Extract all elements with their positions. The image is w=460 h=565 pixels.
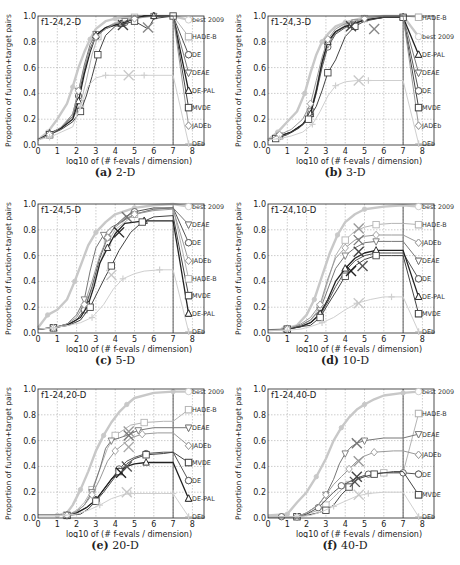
legend-item: MVDE (415, 104, 441, 112)
cross-marker-icon (143, 23, 153, 33)
x-tick-label: 1 (55, 335, 60, 344)
legend-best-2009-marker-icon (415, 33, 421, 39)
series-deb (38, 267, 192, 335)
deae-marker-icon (342, 451, 348, 457)
legend-item: best 2009 (185, 16, 224, 24)
legend-item: DEb (415, 140, 435, 148)
legend-item: MVDE (185, 104, 211, 112)
series-de (268, 14, 422, 140)
cross-marker-icon (106, 270, 116, 280)
legend-de-marker-icon (415, 471, 421, 477)
legend-label: MVDE (192, 104, 211, 112)
x-tick-label: 1 (55, 147, 60, 156)
chart-title: f1-24,3-D (271, 17, 311, 27)
legend-item: best 2009 (415, 388, 454, 396)
legend-de-pal-marker-icon (415, 293, 421, 299)
legend-label: JADEb (191, 257, 211, 265)
x-tick-label: 0 (265, 335, 270, 344)
series-de (268, 470, 422, 520)
legend-label: DEb (192, 328, 205, 336)
best-2009-marker-icon (72, 279, 76, 283)
x-tick-label: 4 (113, 335, 118, 344)
legend-item: JADEb (185, 257, 211, 265)
plot-frame (38, 389, 204, 518)
y-tick-label: 0.0 (23, 141, 36, 150)
cross-marker-icon (352, 438, 362, 448)
legend-label: DEb (422, 328, 435, 336)
legend-jadeb-marker-icon (415, 451, 421, 458)
chart-svg: 0123456780.00.20.40.60.81.0log10 of (# f… (230, 373, 460, 538)
x-tick-label: 2 (304, 335, 309, 344)
chart-svg: 0123456780.00.20.40.60.81.0log10 of (# f… (0, 188, 230, 353)
legend-de-marker-icon (185, 477, 191, 483)
x-tick-label: 5 (362, 335, 367, 344)
y-tick-label: 0.6 (23, 64, 36, 73)
legend-best-2009-marker-icon (415, 388, 421, 394)
legend-item: DEAE (415, 69, 439, 77)
legend-item: MVDE (415, 491, 441, 499)
x-tick-label: 0 (35, 335, 40, 344)
best-2009-marker-icon (125, 402, 129, 406)
legend-item: DE-PAL (185, 310, 215, 318)
x-tick-label: 3 (323, 147, 328, 156)
y-tick-label: 0.2 (23, 303, 36, 312)
panel-5d: 0123456780.00.20.40.60.81.0log10 of (# f… (0, 188, 230, 376)
y-tick-label: 0.4 (253, 462, 266, 471)
y-tick-label: 0.8 (23, 226, 36, 235)
series-de-pal (38, 12, 192, 140)
panel-caption: (c) 5-D (0, 354, 230, 367)
series-de (38, 13, 192, 140)
jadeb-marker-icon (373, 231, 379, 238)
series-de-pal (38, 217, 192, 330)
y-tick-label: 0.8 (23, 411, 36, 420)
series-mvde (38, 216, 192, 331)
legend-hade-b-marker-icon (415, 14, 421, 20)
legend-item: best 2009 (415, 33, 454, 41)
best-2009-marker-icon (171, 389, 175, 393)
legend-item: DEb (185, 328, 205, 336)
series-de-pal (38, 459, 192, 518)
y-tick-label: 0.0 (23, 514, 36, 523)
legend-item: DEb (185, 140, 205, 148)
mvde-marker-icon (87, 304, 93, 310)
series-best-2009 (268, 14, 421, 140)
legend-label: MVDE (192, 459, 211, 467)
legend-mvde-marker-icon (415, 492, 421, 498)
cross-marker-icon (354, 456, 364, 466)
y-tick-label: 1.0 (23, 385, 36, 394)
x-tick-label: 1 (285, 335, 290, 344)
x-tick-label: 4 (343, 147, 348, 156)
best-2009-marker-icon (302, 91, 306, 95)
series-de-pal (268, 13, 422, 139)
legend-de-marker-icon (415, 276, 421, 282)
y-tick-label: 0.2 (23, 115, 36, 124)
legend-item: DEb (415, 513, 435, 521)
x-tick-label: 2 (74, 335, 79, 344)
x-tick-label: 1 (285, 520, 290, 529)
y-tick-label: 0.2 (253, 303, 266, 312)
legend-mvde-marker-icon (185, 292, 191, 298)
y-tick-label: 1.0 (23, 200, 36, 209)
y-axis-label: Proportion of function+target pairs (4, 14, 13, 147)
legend-label: MVDE (422, 310, 441, 318)
x-tick-label: 7 (171, 520, 176, 529)
legend-mvde-marker-icon (185, 459, 191, 465)
mvde-marker-icon (371, 471, 377, 477)
y-tick-label: 1.0 (253, 12, 266, 21)
legend-label: best 2009 (192, 16, 224, 24)
panel-20d: 0123456780.00.20.40.60.81.0log10 of (# f… (0, 373, 230, 561)
legend-item: DE (185, 239, 201, 247)
legend-item: DEb (185, 513, 205, 521)
grid (268, 16, 434, 145)
best-2009-marker-icon (94, 230, 98, 234)
x-tick-label: 6 (151, 520, 156, 529)
x-tick-label: 3 (93, 520, 98, 529)
mvde-marker-icon (139, 219, 145, 225)
best-2009-marker-icon (78, 487, 82, 491)
y-tick-label: 0.6 (253, 437, 266, 446)
legend-label: DEAE (422, 257, 439, 265)
grid (38, 389, 204, 518)
legend-label: DE-PAL (192, 495, 215, 503)
x-tick-label: 2 (304, 520, 309, 529)
legend-item: DE (185, 477, 201, 485)
